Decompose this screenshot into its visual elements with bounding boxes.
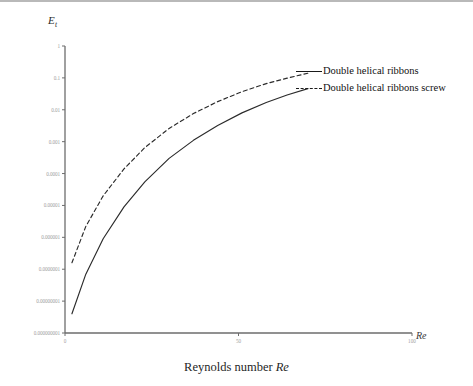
- y-axis-tick-label: 1: [58, 43, 61, 49]
- legend-label: Double helical ribbons screw: [323, 82, 446, 93]
- y-axis-tick-label: 0.00001: [44, 202, 60, 208]
- y-axis-tick-label: 0.01: [51, 107, 60, 113]
- legend-line-dashed-icon: [296, 83, 322, 92]
- figure-container: Et Re 10.10.010.0010.00010.000010.000001…: [0, 0, 473, 386]
- data-series-line: [72, 73, 308, 262]
- legend: Double helical ribbons Double helical ri…: [296, 62, 446, 96]
- y-axis-tick-label: 0.000001: [41, 234, 60, 240]
- y-axis-tick-label: 0.0000001: [39, 266, 60, 272]
- y-axis-tick-label: 0.1: [54, 75, 60, 81]
- y-axis-tick-label: 0.0001: [46, 171, 60, 177]
- y-axis-tick-label: 0.001: [49, 139, 60, 145]
- legend-item-double-helical-ribbons-screw: Double helical ribbons screw: [296, 79, 446, 96]
- legend-item-double-helical-ribbons: Double helical ribbons: [296, 62, 446, 79]
- data-series-group: [72, 73, 308, 314]
- x-axis-tick-label: 50: [236, 338, 241, 344]
- data-series-line: [72, 89, 308, 314]
- y-axis-tick-label: 0.00000001: [36, 298, 60, 304]
- y-axis-tick-label: 0.000000001: [34, 330, 60, 336]
- legend-label: Double helical ribbons: [323, 65, 419, 76]
- plot-area: [0, 0, 473, 386]
- x-axis-caption-symbol: Re: [276, 360, 289, 374]
- x-axis-caption: Reynolds number Re: [0, 360, 473, 375]
- legend-line-solid-icon: [296, 66, 322, 75]
- x-axis-caption-text: Reynolds number: [184, 360, 276, 374]
- x-axis-tick-label: 0: [64, 338, 67, 344]
- x-axis-tick-label: 100: [408, 338, 416, 344]
